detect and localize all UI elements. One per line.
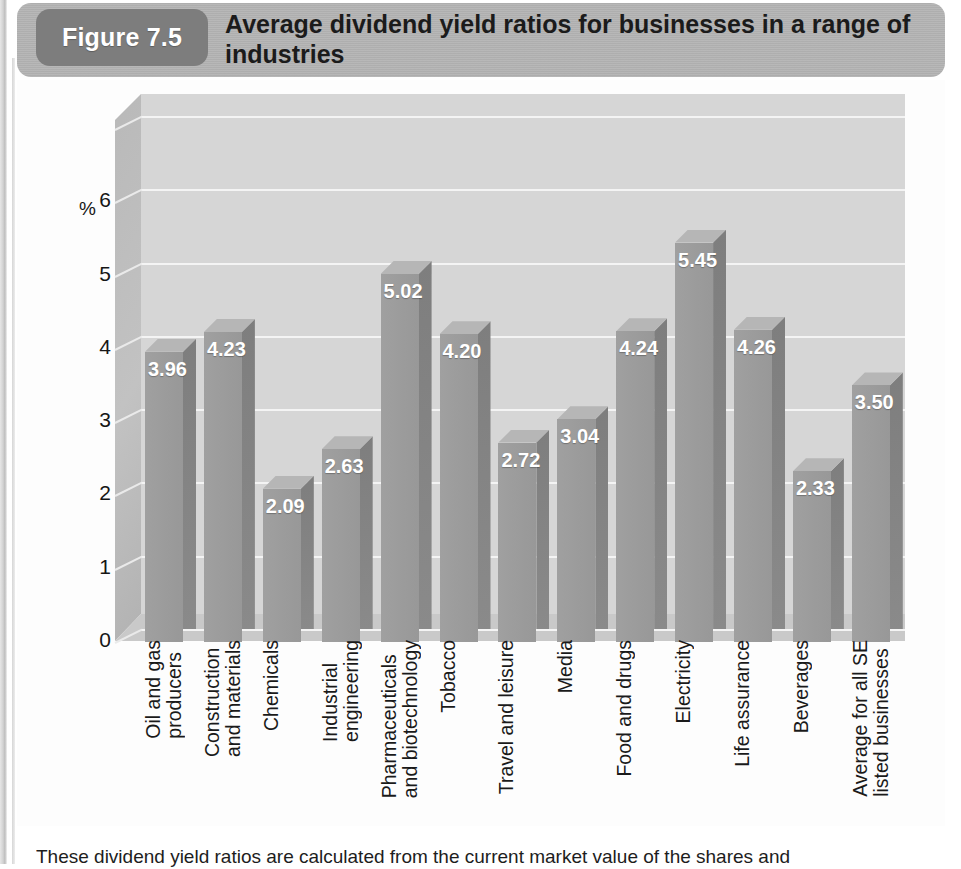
x-axis-category-label: Construction and materials <box>202 640 244 757</box>
x-axis-category-label: Average for all SE listed businesses <box>850 640 892 797</box>
y-axis-tick-label: 5 <box>71 262 111 286</box>
y-axis-tick-label: 2 <box>71 481 111 505</box>
page-edge-artifact-inner <box>12 58 15 864</box>
bar-side-face <box>419 261 432 629</box>
bar-value-label: 3.50 <box>855 391 894 414</box>
figure-caption: These dividend yield ratios are calculat… <box>36 845 936 869</box>
bar-value-label: 5.02 <box>384 280 423 303</box>
bar-value-label: 3.04 <box>560 425 599 448</box>
bar-value-label: 5.45 <box>678 249 717 272</box>
bar-chart-plot: 3.964.232.092.635.024.202.723.044.245.45… <box>17 80 945 660</box>
bar: 4.20 <box>440 321 478 642</box>
bar-side-face <box>772 317 785 629</box>
x-axis-category-label: Tobacco <box>438 640 459 713</box>
bar-front-face <box>145 352 183 642</box>
bar-front-face <box>498 443 536 642</box>
page-edge-artifact <box>0 0 7 864</box>
bar-side-face <box>242 319 255 629</box>
bar: 5.02 <box>381 261 419 642</box>
y-axis-tick-label: 3 <box>71 408 111 432</box>
bar-side-face <box>183 339 196 629</box>
bar: 3.50 <box>852 372 890 642</box>
x-axis-category-label: Oil and gas producers <box>143 640 185 739</box>
bar-value-label: 4.26 <box>737 336 776 359</box>
bar: 2.72 <box>498 430 536 642</box>
bar-front-face <box>675 243 713 642</box>
bar: 4.23 <box>204 319 242 642</box>
bar-value-label: 2.09 <box>266 495 305 518</box>
bar: 2.33 <box>793 458 831 642</box>
figure-title: Average dividend yield ratios for busine… <box>225 9 925 69</box>
bar-front-face <box>734 330 772 642</box>
bar: 2.09 <box>263 476 301 642</box>
bar: 3.04 <box>557 406 595 642</box>
bar-value-label: 4.24 <box>619 337 658 360</box>
x-axis-category-label: Media <box>555 640 576 693</box>
bar-side-face <box>478 321 491 629</box>
bar-value-label: 2.33 <box>796 477 835 500</box>
bar-front-face <box>616 331 654 642</box>
bar-front-face <box>440 334 478 642</box>
bar-front-face <box>852 385 890 642</box>
bar-side-face <box>713 230 726 629</box>
gridline <box>141 189 905 191</box>
x-axis-category-label: Life assurance <box>732 640 753 767</box>
x-axis-category-label: Beverages <box>791 640 812 733</box>
y-axis-unit-label: % <box>79 198 96 220</box>
bar-front-face <box>204 332 242 642</box>
y-axis: 6543210 <box>69 80 111 660</box>
bar: 4.26 <box>734 317 772 642</box>
figure-number-label: Figure 7.5 <box>62 23 182 52</box>
bar-value-label: 3.96 <box>148 358 187 381</box>
gridline <box>141 409 905 411</box>
x-axis-category-label: Chemicals <box>261 640 282 731</box>
x-axis-category-label: Industrial engineering <box>320 640 362 742</box>
x-axis-category-label: Pharmaceuticals and biotechnology <box>379 640 421 798</box>
x-axis-category-labels: Oil and gas producersConstruction and ma… <box>17 640 945 826</box>
gridline <box>141 336 905 338</box>
bar: 5.45 <box>675 230 713 642</box>
figure-banner: Figure 7.5 Average dividend yield ratios… <box>17 3 945 77</box>
x-axis-category-label: Food and drugs <box>614 640 635 777</box>
gridline <box>141 263 905 265</box>
y-axis-tick-label: 1 <box>71 555 111 579</box>
bar-side-face <box>654 318 667 629</box>
x-axis-category-label: Travel and leisure <box>496 640 517 794</box>
bar-value-label: 4.23 <box>207 338 246 361</box>
chart-card: 3.964.232.092.635.024.202.723.044.245.45… <box>17 80 945 826</box>
x-axis-category-label: Electricity <box>673 640 694 723</box>
figure-number-badge: Figure 7.5 <box>36 9 208 66</box>
bar-value-label: 4.20 <box>443 340 482 363</box>
bar-value-label: 2.72 <box>501 449 540 472</box>
bar: 2.63 <box>322 436 360 642</box>
bar: 4.24 <box>616 318 654 642</box>
gridline <box>141 116 905 118</box>
bar-value-label: 2.63 <box>325 455 364 478</box>
bar-front-face <box>381 274 419 642</box>
y-axis-tick-label: 4 <box>71 335 111 359</box>
bar-front-face <box>557 419 595 642</box>
bar: 3.96 <box>145 339 183 642</box>
